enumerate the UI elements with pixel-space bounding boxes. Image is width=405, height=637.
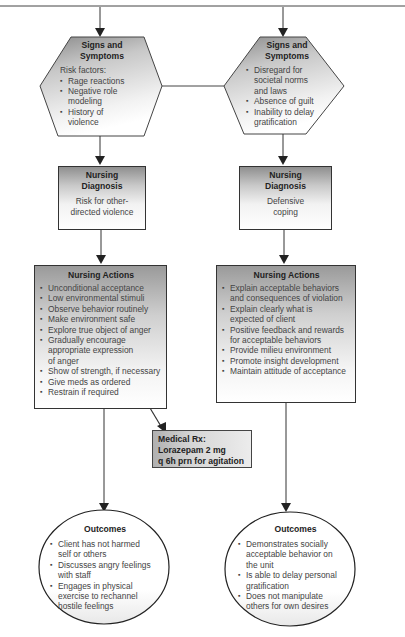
outcomes-left-list: Client has not harmed self or others Dis… bbox=[50, 539, 160, 612]
actions-left-list: Unconditional acceptance Low environment… bbox=[40, 283, 162, 397]
diagnosis-left-title-2: Diagnosis bbox=[59, 181, 145, 192]
list-item: Promote insight development bbox=[222, 356, 351, 366]
arrowhead-top-right bbox=[278, 28, 288, 37]
outcomes-right-title: Outcomes bbox=[238, 524, 353, 535]
outcomes-right-list: Demonstrates socially acceptable behavio… bbox=[238, 539, 353, 612]
list-item: Restrain if required bbox=[40, 387, 162, 397]
list-item: Explain clearly what is expected of clie… bbox=[222, 304, 325, 325]
list-item: Make environment safe bbox=[40, 314, 162, 324]
diagnosis-left-title-1: Nursing bbox=[59, 170, 145, 181]
arrowhead-left-diagnosis bbox=[95, 156, 105, 165]
diagnosis-right-title-1: Nursing bbox=[240, 170, 331, 181]
signs-left-title-2: Symptoms bbox=[60, 51, 144, 62]
list-item: Disregard for societal norms and laws bbox=[246, 65, 316, 96]
signs-right: Signs and Symptoms Disregard for societa… bbox=[246, 40, 328, 127]
list-item: Explore true object of anger bbox=[40, 325, 162, 335]
signs-left-title-1: Signs and bbox=[60, 40, 144, 51]
diagnosis-left: Nursing Diagnosis Risk for other- direct… bbox=[58, 166, 146, 230]
actions-right: Nursing Actions Explain acceptable behav… bbox=[216, 265, 356, 403]
list-item: Positive feedback and rewards for accept… bbox=[222, 325, 351, 346]
list-item: Client has not harmed self or others bbox=[50, 539, 143, 560]
medical-rx-drug: Lorazepam 2 mg bbox=[158, 445, 251, 456]
list-item: Rage reactions bbox=[60, 76, 144, 86]
signs-right-list: Disregard for societal norms and laws Ab… bbox=[246, 65, 328, 127]
list-item: Gradually encourage appropriate expressi… bbox=[40, 335, 140, 366]
list-item: Give meds as ordered bbox=[40, 377, 162, 387]
signs-left-list: Rage reactions Negative role modeling Hi… bbox=[60, 76, 144, 128]
list-item: Unconditional acceptance bbox=[40, 283, 162, 293]
list-item: Observe behavior routinely bbox=[40, 304, 162, 314]
list-item: Inability to delay gratification bbox=[246, 107, 328, 128]
list-item: Demonstrates socially acceptable behavio… bbox=[238, 539, 344, 570]
actions-left-title: Nursing Actions bbox=[40, 270, 162, 281]
medical-rx-label: Medical Rx: bbox=[158, 434, 251, 445]
list-item: History of violence bbox=[60, 107, 118, 128]
signs-left-subtitle: Risk factors: bbox=[60, 65, 144, 76]
list-item: Show of strength, if necessary bbox=[40, 366, 162, 376]
diagnosis-right-title-2: Diagnosis bbox=[240, 181, 331, 192]
diagnosis-left-text-1: Risk for other- bbox=[59, 196, 145, 207]
arrowhead-top-left bbox=[95, 28, 105, 37]
list-item: Maintain attitude of acceptance bbox=[222, 366, 351, 376]
actions-right-title: Nursing Actions bbox=[222, 270, 351, 281]
outcomes-right: Outcomes Demonstrates socially acceptabl… bbox=[238, 524, 353, 612]
arrowhead-right-outcomes bbox=[281, 503, 291, 512]
list-item: Engages in physical exercise to rechanne… bbox=[50, 581, 150, 612]
diagnosis-right-text-2: coping bbox=[240, 207, 331, 218]
list-item: Provide milieu environment bbox=[222, 345, 351, 355]
list-item: Does not manipulate others for own desir… bbox=[238, 591, 336, 612]
arrowhead-right-diagnosis bbox=[278, 156, 288, 165]
arrowhead-left-actions bbox=[96, 255, 106, 264]
actions-left: Nursing Actions Unconditional acceptance… bbox=[34, 265, 167, 409]
outcomes-left-title: Outcomes bbox=[50, 524, 160, 535]
signs-left: Signs and Symptoms Risk factors: Rage re… bbox=[60, 40, 144, 128]
diagnosis-right: Nursing Diagnosis Defensive coping bbox=[239, 166, 332, 230]
outcomes-left: Outcomes Client has not harmed self or o… bbox=[50, 524, 160, 612]
list-item: Negative role modeling bbox=[60, 86, 144, 107]
signs-right-title-2: Symptoms bbox=[246, 51, 328, 62]
actions-right-list: Explain acceptable behaviors and consequ… bbox=[222, 283, 351, 377]
signs-right-title-1: Signs and bbox=[246, 40, 328, 51]
list-item: Absence of guilt bbox=[246, 96, 328, 106]
list-item: Explain acceptable behaviors and consequ… bbox=[222, 283, 351, 304]
list-item: Is able to delay personal gratification bbox=[238, 570, 348, 591]
medical-rx-dosage: q 6h prn for agitation bbox=[158, 456, 251, 467]
list-item: Discusses angry feelings with staff bbox=[50, 560, 153, 581]
medical-rx-box: Medical Rx: Lorazepam 2 mg q 6h prn for … bbox=[152, 430, 252, 468]
diagnosis-right-text-1: Defensive bbox=[240, 196, 331, 207]
diagnosis-left-text-2: directed violence bbox=[59, 207, 145, 218]
arrowhead-right-actions bbox=[279, 255, 289, 264]
list-item: Low environmental stimuli bbox=[40, 293, 162, 303]
